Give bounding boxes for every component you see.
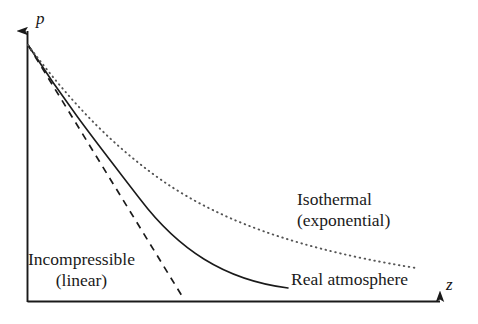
real-atmosphere-curve-label: Real atmosphere bbox=[291, 269, 408, 290]
pressure-altitude-diagram: p z Isothermal (exponential) Incompressi… bbox=[0, 0, 478, 324]
incompressible-label-line2: (linear) bbox=[28, 270, 135, 291]
incompressible-curve-label: Incompressible (linear) bbox=[28, 249, 135, 290]
isothermal-curve-label: Isothermal (exponential) bbox=[297, 189, 390, 230]
curve-isothermal-exponential bbox=[28, 45, 416, 268]
isothermal-label-line1: Isothermal bbox=[297, 189, 390, 210]
x-axis-label: z bbox=[446, 276, 453, 293]
isothermal-label-line2: (exponential) bbox=[297, 210, 390, 231]
y-axis-label: p bbox=[36, 10, 45, 27]
incompressible-label-line1: Incompressible bbox=[28, 249, 135, 270]
